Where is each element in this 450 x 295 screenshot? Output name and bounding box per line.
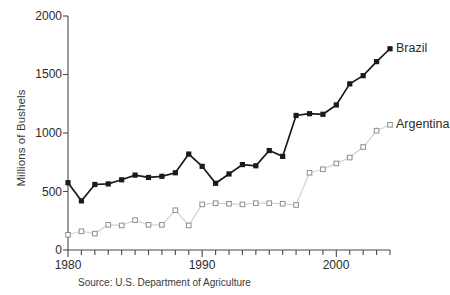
series-line-argentina: [68, 125, 390, 235]
x-axis-ticks: [68, 250, 390, 257]
series-markers-argentina: [66, 123, 393, 238]
series-label-argentina: Argentina: [396, 117, 450, 131]
series-label-brazil: Brazil: [396, 41, 427, 55]
source-note: Source: U.S. Department of Agriculture: [78, 277, 251, 288]
chart-axes: [68, 16, 390, 250]
y-axis-ticks: [63, 16, 68, 250]
series-line-brazil: [68, 49, 390, 201]
series-markers-brazil: [65, 46, 392, 203]
